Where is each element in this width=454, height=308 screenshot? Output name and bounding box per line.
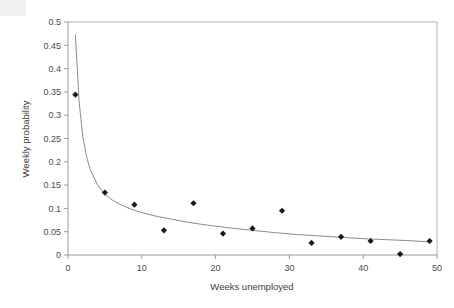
- data-point-marker: [72, 92, 78, 98]
- data-point-marker: [338, 234, 344, 240]
- chart-figure: 00.050.10.150.20.250.30.350.40.450.5 010…: [0, 0, 454, 308]
- x-tick-label: 10: [137, 263, 147, 273]
- plot-area: [68, 22, 437, 255]
- y-tick-label: 0.05: [43, 227, 61, 237]
- y-tick-label: 0.35: [43, 87, 61, 97]
- y-tick-label: 0.45: [43, 41, 61, 51]
- x-tick-label: 40: [358, 263, 368, 273]
- data-point-marker: [161, 227, 167, 233]
- data-point-marker: [397, 251, 403, 257]
- fitted-curve-path: [75, 35, 429, 242]
- x-tick-label: 30: [284, 263, 294, 273]
- x-tick-label: 0: [65, 263, 70, 273]
- y-axis-title: Weekly probability: [20, 100, 31, 177]
- x-axis-title: Weeks unemployed: [210, 281, 293, 292]
- y-tick-label: 0.3: [48, 110, 61, 120]
- data-point-marker: [131, 202, 137, 208]
- data-point-marker: [220, 230, 226, 236]
- fitted-curve: [75, 35, 429, 242]
- y-tick-label: 0.15: [43, 180, 61, 190]
- data-point-marker: [279, 208, 285, 214]
- data-point-marker: [190, 200, 196, 206]
- data-point-marker: [427, 238, 433, 244]
- y-tick-label: 0: [56, 250, 61, 260]
- x-tick-label: 20: [211, 263, 221, 273]
- scatter-chart-svg: 00.050.10.150.20.250.30.350.40.450.5 010…: [0, 0, 454, 308]
- data-point-marker: [308, 240, 314, 246]
- y-tick-label: 0.5: [48, 17, 61, 27]
- y-axis-ticks: 00.050.10.150.20.250.30.350.40.450.5: [43, 17, 68, 260]
- y-tick-label: 0.25: [43, 134, 61, 144]
- y-tick-label: 0.4: [48, 64, 61, 74]
- y-tick-label: 0.2: [48, 157, 61, 167]
- y-tick-label: 0.1: [48, 204, 61, 214]
- data-point-markers: [72, 92, 432, 258]
- x-axis-ticks: 01020304050: [65, 255, 442, 273]
- data-point-marker: [102, 189, 108, 195]
- x-tick-label: 50: [432, 263, 442, 273]
